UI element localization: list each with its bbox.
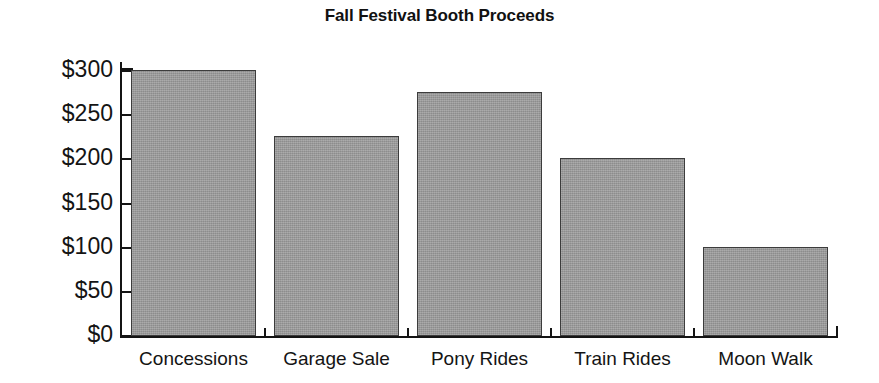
x-axis-tick [264,328,266,338]
y-axis-tick-label: $200 [62,145,113,169]
bar-moon-walk[interactable] [703,247,828,336]
y-axis-tick-label: $250 [62,101,113,125]
x-axis-tick [693,328,695,338]
y-axis-tick-label: $100 [62,234,113,258]
bar-pony-rides[interactable] [417,92,542,336]
plot-area: $0 $50 $100 $150 $200 $250 $300 [120,62,838,344]
bar-garage-sale[interactable] [274,136,399,336]
x-axis-tick [407,328,409,338]
x-axis-category-label: Train Rides [560,348,685,370]
y-axis-tick-label: $0 [87,322,113,346]
chart-title: Fall Festival Booth Proceeds [0,6,879,26]
y-axis-tick-label: $150 [62,190,113,214]
y-axis-tick-label: $300 [62,57,113,81]
x-axis-category-label: Pony Rides [417,348,542,370]
bar-concessions[interactable] [131,70,256,336]
y-axis-tick-label: $50 [75,278,113,302]
bar-chart-figure: Fall Festival Booth Proceeds $0 $50 $100… [0,0,879,383]
x-axis-category-label: Concessions [131,348,256,370]
x-axis-category-label: Moon Walk [703,348,828,370]
x-axis-end-cap [836,326,838,338]
x-axis-line [120,336,838,338]
x-axis-tick [550,328,552,338]
bar-train-rides[interactable] [560,158,685,336]
x-axis-category-label: Garage Sale [274,348,399,370]
y-axis-line [120,62,122,338]
